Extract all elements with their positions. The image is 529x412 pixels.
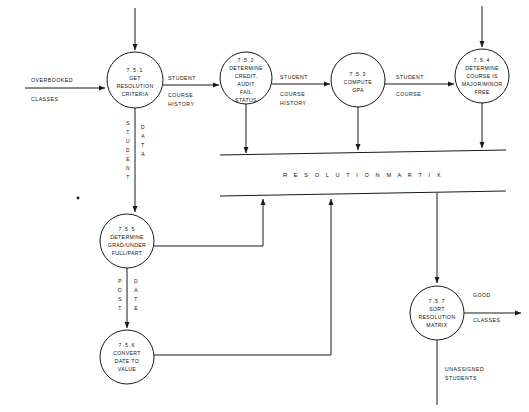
vlabel-date-1: A <box>134 287 138 293</box>
vlabel-date-0: D <box>134 278 138 284</box>
process-line-7-5-4-3: MAJOR/MINOR <box>462 81 503 87</box>
label-course-2: COURSE <box>280 91 305 97</box>
process-line-7-5-7-3: MATRIX <box>426 322 448 328</box>
process-id-7-5-6: 7.5.6 <box>118 342 135 348</box>
vertical-label-student-data: S T U D E N T D A T A <box>126 120 145 180</box>
vlabel-student-4: E <box>126 156 130 162</box>
label-student-1: STUDENT <box>168 75 196 81</box>
process-id-7-5-7: 7.5.7 <box>428 298 445 304</box>
label-student-3: STUDENT <box>396 74 424 80</box>
store-top-line <box>220 150 506 155</box>
vlabel-post-3: T <box>118 305 121 311</box>
dfd-svg: R E S O L U T I O N M A R T I X 7.5.1 <box>0 0 529 412</box>
data-flow-diagram-canvas: R E S O L U T I O N M A R T I X 7.5.1 <box>0 0 529 412</box>
process-line-7-5-2-2: CREDIT, <box>235 73 258 79</box>
vlabel-student-3: D <box>126 147 130 153</box>
label-unassigned: UNASSIGNED <box>445 366 484 372</box>
process-line-7-5-6-3: VALUE <box>118 366 137 372</box>
vlabel-data-3: A <box>141 151 145 157</box>
vlabel-data-1: A <box>141 133 145 139</box>
vlabel-data-0: D <box>141 124 145 130</box>
process-line-7-5-3-1: COMPUTE <box>344 79 373 85</box>
process-id-7-5-5: 7.5.5 <box>118 226 135 232</box>
vlabel-post-2: S <box>118 296 122 302</box>
process-line-7-5-2-5: STATUS <box>235 97 257 103</box>
process-7-5-6[interactable]: 7.5.6 CONVERT DATE TO VALUE <box>100 330 154 384</box>
label-history-1: HISTORY <box>168 101 194 107</box>
label-students: STUDENTS <box>445 375 477 381</box>
process-7-5-7[interactable]: 7.5.7 SORT RESOLUTION MATRIX <box>410 286 464 340</box>
ink-dot-artifact <box>77 197 80 200</box>
process-7-5-2[interactable]: 7.5.2 DETERMINE CREDIT, AUDIT FAIL STATU… <box>220 52 272 104</box>
label-classes: CLASSES <box>31 96 58 102</box>
data-store-resolution-matrix: R E S O L U T I O N M A R T I X <box>220 150 506 196</box>
process-line-7-5-4-1: DETERMINE <box>465 65 499 71</box>
store-label: R E S O L U T I O N M A R T I X <box>283 172 443 178</box>
process-line-7-5-2-3: AUDIT <box>237 81 255 87</box>
process-line-7-5-7-1: SORT <box>429 306 445 312</box>
process-line-7-5-7-2: RESOLUTION <box>418 314 455 320</box>
process-id-7-5-2: 7.5.2 <box>237 57 254 63</box>
label-course-1: COURSE <box>168 92 193 98</box>
vlabel-date-2: T <box>134 296 137 302</box>
label-overbooked: OVERBOOKED <box>31 77 73 83</box>
process-line-7-5-4-2: COURSE IS <box>466 73 498 79</box>
vlabel-student-0: S <box>126 120 130 126</box>
label-good: GOOD <box>473 292 491 298</box>
vlabel-student-2: U <box>126 138 130 144</box>
vertical-label-post-date: P O S T D A T E <box>118 278 138 311</box>
process-line-7-5-5-3: FULL/PART <box>112 250 143 256</box>
process-7-5-3[interactable]: 7.5.3 COMPUTE GPA <box>331 53 385 107</box>
process-line-7-5-1-3: CRITERIA <box>121 91 148 97</box>
process-line-7-5-2-1: DETERMINE <box>229 65 263 71</box>
label-good-classes: CLASSES <box>473 317 500 323</box>
process-line-7-5-2-4: FAIL <box>240 89 252 95</box>
label-course-3: COURSE <box>396 91 421 97</box>
process-line-7-5-1-1: GET <box>129 75 141 81</box>
process-line-7-5-6-2: DATE TO <box>115 358 139 364</box>
process-line-7-5-6-1: CONVERT <box>113 350 141 356</box>
flow-7-5-6-to-store <box>154 199 331 355</box>
process-id-7-5-3: 7.5.3 <box>349 71 366 77</box>
process-line-7-5-5-2: GRAD/UNDER <box>108 242 146 248</box>
vlabel-student-1: T <box>126 129 129 135</box>
label-history-2: HISTORY <box>280 100 306 106</box>
process-circle-7-5-7[interactable] <box>410 286 464 340</box>
vlabel-data-2: T <box>141 142 144 148</box>
process-line-7-5-5-1: DETERMINE <box>110 234 144 240</box>
process-line-7-5-4-4: FREE <box>474 89 489 95</box>
process-circle-7-5-6[interactable] <box>100 330 154 384</box>
process-line-7-5-1-2: RESOLUTION <box>116 83 153 89</box>
process-7-5-4[interactable]: 7.5.4 DETERMINE COURSE IS MAJOR/MINOR FR… <box>455 49 509 103</box>
process-7-5-1[interactable]: 7.5.1 GET RESOLUTION CRITERIA <box>107 52 163 108</box>
process-circle-7-5-5[interactable] <box>100 214 154 268</box>
vlabel-post-1: O <box>118 287 122 293</box>
vlabel-student-5: N <box>126 165 130 171</box>
vlabel-date-3: E <box>134 305 138 311</box>
flow-7-5-5-to-store <box>154 199 263 246</box>
process-line-7-5-3-2: GPA <box>352 87 364 93</box>
store-bottom-line <box>220 191 506 196</box>
process-id-7-5-4: 7.5.4 <box>473 57 490 63</box>
vlabel-student-6: T <box>126 174 129 180</box>
label-student-2: STUDENT <box>280 74 308 80</box>
vlabel-post-0: P <box>118 278 122 284</box>
process-7-5-5[interactable]: 7.5.5 DETERMINE GRAD/UNDER FULL/PART <box>100 214 154 268</box>
process-id-7-5-1: 7.5.1 <box>126 67 143 73</box>
